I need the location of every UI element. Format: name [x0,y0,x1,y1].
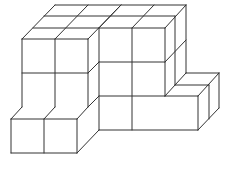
left-low-step [11,107,99,153]
left-tower [22,39,99,107]
cube-structure-diagram [0,0,235,171]
middle-tower [99,5,198,130]
top-surface [22,5,186,39]
right-low-step [165,73,219,130]
